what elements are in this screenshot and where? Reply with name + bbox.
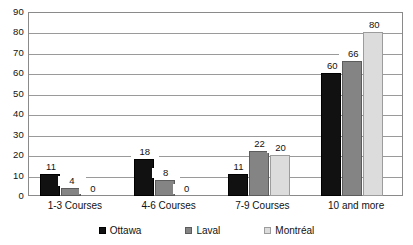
bar-value-label: 0 [173, 184, 201, 194]
chart-legend: OttawaLavalMontréal [0, 221, 413, 239]
bar-value-label: 18 [131, 147, 159, 157]
bar-group: 606680 [309, 12, 403, 196]
bar-ottawa-3 [228, 174, 248, 196]
legend-item-laval: Laval [185, 225, 220, 236]
bar-laval-3 [249, 151, 269, 196]
legend-item-montral: Montréal [264, 225, 314, 236]
y-axis-tick-label: 30 [2, 130, 24, 140]
bar-laval-4 [342, 61, 362, 196]
y-axis-tick-label: 60 [2, 68, 24, 78]
bar-montral-4 [363, 32, 383, 196]
bar-value-label: 8 [152, 168, 180, 178]
x-axis: 1-3 Courses4-6 Courses7-9 Courses10 and … [28, 199, 403, 215]
legend-label: Ottawa [110, 225, 142, 236]
legend-swatch-icon [264, 227, 271, 234]
y-axis-tick-label: 0 [2, 191, 24, 201]
bar-group: 1880 [122, 12, 216, 196]
bar-group: 1140 [28, 12, 122, 196]
legend-label: Laval [196, 225, 220, 236]
bar-value-label: 20 [267, 143, 295, 153]
y-axis-tick-label: 70 [2, 48, 24, 58]
bar-ottawa-2 [134, 159, 154, 196]
x-axis-tick-label: 7-9 Courses [216, 199, 310, 212]
bar-ottawa-4 [321, 73, 341, 196]
y-axis-tick-label: 40 [2, 109, 24, 119]
bar-value-label: 80 [360, 20, 388, 30]
bar-value-label: 0 [79, 184, 107, 194]
x-axis-tick-label: 4-6 Courses [122, 199, 216, 212]
legend-item-ottawa: Ottawa [99, 225, 142, 236]
bar-montral-3 [270, 155, 290, 196]
bar-laval-2 [155, 180, 175, 196]
y-axis-tick-label: 10 [2, 171, 24, 181]
bars-layer: 11401880112220606680 [28, 12, 403, 196]
y-axis-tick-label: 50 [2, 89, 24, 99]
x-axis-tick-label: 1-3 Courses [28, 199, 122, 212]
bar-laval-1 [61, 188, 81, 196]
x-axis-tick-label: 10 and more [309, 199, 403, 212]
y-axis-tick-label: 80 [2, 27, 24, 37]
bar-ottawa-1 [40, 174, 60, 196]
y-axis-tick-label: 20 [2, 150, 24, 160]
y-axis-tick-label: 90 [2, 7, 24, 17]
bar-chart: 9080706050403020100 11401880112220606680… [0, 0, 413, 245]
legend-swatch-icon [99, 227, 106, 234]
bar-group: 112220 [216, 12, 310, 196]
legend-swatch-icon [185, 227, 192, 234]
legend-label: Montréal [275, 225, 314, 236]
bar-value-label: 11 [37, 162, 65, 172]
